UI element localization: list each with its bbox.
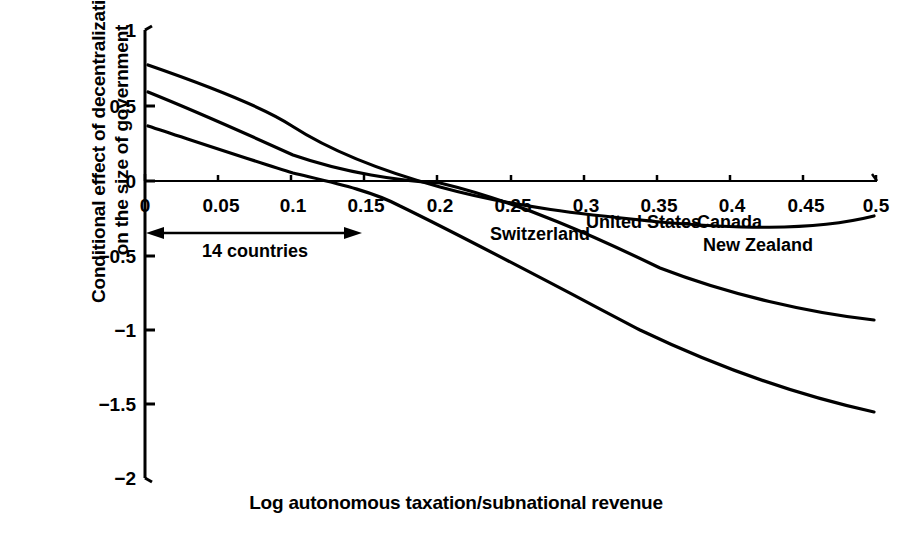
y-tick-label-1: 1 (125, 20, 136, 41)
country-label-canada: Canada (697, 212, 763, 232)
x-axis-title: Log autonomous taxation/subnational reve… (0, 492, 912, 514)
range-arrow-head-left-icon (146, 227, 164, 239)
countries-range-label: 14 countries (202, 241, 308, 261)
chart-figure: Conditional effect of decentralization o… (0, 0, 912, 535)
x-tick-label-0_45: 0.45 (788, 195, 825, 216)
countries-range-annotation: 14 countries (146, 227, 362, 261)
range-arrow-head-right-icon (344, 227, 362, 239)
x-tick-label-0_5: 0.5 (863, 195, 890, 216)
y-axis-bottom-cap (145, 478, 152, 482)
curve-lower-confidence-bound (148, 126, 874, 412)
y-tick-label-neg2: −2 (114, 468, 136, 489)
y-tick-label-neg0_5: −0.5 (98, 246, 136, 267)
country-label-new-zealand: New Zealand (703, 235, 813, 255)
country-label-united-states: United States (586, 212, 701, 232)
y-tick-label-neg1_5: −1.5 (98, 394, 136, 415)
y-tick-label-0: 0 (125, 171, 136, 192)
x-tick-marks (145, 174, 876, 181)
x-tick-label-0_2: 0.2 (427, 195, 453, 216)
y-tick-label-0_5: 0.5 (110, 96, 137, 117)
x-tick-label-0_1: 0.1 (280, 195, 307, 216)
x-tick-label-0_05: 0.05 (203, 195, 240, 216)
y-tick-label-neg1: −1 (114, 320, 136, 341)
x-tick-label-0: 0 (140, 195, 151, 216)
country-label-switzerland: Switzerland (490, 224, 590, 244)
y-axis-top-cap (145, 26, 152, 30)
plot-area: 1 0.5 0 −0.5 −1 −1.5 −2 0 0.05 0.1 0.15 … (0, 0, 912, 535)
